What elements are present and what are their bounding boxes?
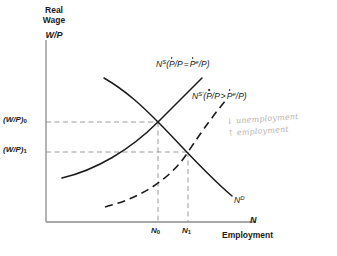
x-tick-n1-sub: 1: [188, 229, 191, 235]
x-tick-n0-sub: 0: [157, 229, 160, 235]
curve-label-supply-base: NS(P/P=Pe/P): [156, 59, 210, 69]
y-tick-label-wp1: (W/P)1: [3, 146, 27, 155]
y-tick-wp0-base: (W/P): [3, 115, 23, 124]
supply-base-d1: /P: [175, 59, 183, 69]
x-axis-title: Employment: [222, 231, 302, 240]
y-axis-symbol: W/P: [26, 31, 82, 41]
y-tick-wp0-sub: 0: [23, 118, 26, 124]
curve-labor-supply-shifted: [105, 100, 226, 207]
x-tick-label-n0: N0: [151, 227, 160, 236]
supply-shift-d1: /P: [212, 91, 220, 101]
curve-label-supply-shifted: NS′(P/P>Pe/P): [192, 91, 247, 101]
supply-shift-close: ): [244, 91, 247, 101]
supply-base-operator: =: [183, 59, 190, 69]
x-tick-label-n1: N1: [182, 227, 191, 236]
supply-base-d2: /P: [199, 59, 207, 69]
y-axis-title-line1: Real: [26, 6, 82, 15]
curve-labor-supply-base: [62, 78, 202, 178]
supply-shift-operator: >: [220, 91, 227, 101]
y-tick-label-wp0: (W/P)0: [3, 116, 27, 125]
x-axis-symbol: N: [250, 216, 270, 226]
y-tick-wp1-base: (W/P): [3, 145, 23, 154]
curve-label-demand: ND: [234, 195, 244, 205]
supply-shift-d2: /P: [236, 91, 244, 101]
supply-shift-p1: P: [206, 91, 212, 101]
y-axis-title-line2: Wage: [26, 16, 82, 25]
y-tick-wp1-sub: 1: [23, 148, 26, 154]
supply-base-p2: P: [190, 59, 196, 69]
supply-base-close: ): [207, 59, 210, 69]
figure-canvas: Real Wage W/P (W/P)0 (W/P)1 N0 N1 N Empl…: [0, 0, 337, 256]
demand-sup: D: [240, 195, 244, 201]
supply-base-p1: P: [169, 59, 175, 69]
supply-shift-p2: P: [227, 91, 233, 101]
